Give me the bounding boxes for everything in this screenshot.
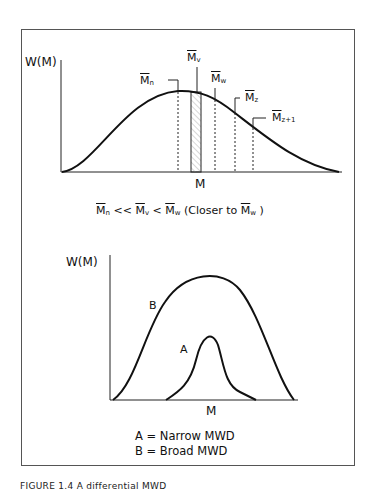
curve-b (113, 276, 294, 400)
legend-item-b: B = Broad MWD (135, 446, 227, 458)
marker-label-mn: Mn (140, 75, 154, 87)
bottom-x-axis-label: M (206, 405, 216, 417)
bottom-chart (110, 255, 298, 400)
relation-text: Mn << Mv < Mw (Closer to Mw ) (96, 205, 264, 217)
curve-a-label: A (180, 344, 188, 355)
top-y-axis-label: W(M) (25, 56, 57, 68)
mv-shaded-strip (191, 92, 201, 172)
bottom-y-axis-label: W(M) (66, 256, 98, 268)
top-chart (61, 60, 342, 172)
top-x-axis-label: M (195, 178, 205, 190)
curve-b-label: B (149, 300, 157, 311)
marker-label-mv: Mv (187, 52, 201, 64)
marker-label-mz: Mz (245, 92, 258, 104)
marker-label-mw: Mw (211, 73, 226, 85)
legend-item-a: A = Narrow MWD (135, 431, 235, 443)
marker-label-mz1: Mz+1 (272, 112, 296, 124)
figure-caption: FIGURE 1.4 A differential MWD (20, 481, 166, 491)
